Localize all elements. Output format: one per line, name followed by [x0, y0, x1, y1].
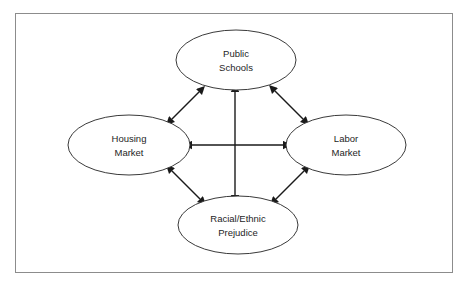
- connector-prejudice-to-labor: [276, 171, 304, 199]
- node-label-public-schools-line-1: Public: [223, 48, 249, 59]
- connector-housing-to-prejudice: [172, 171, 200, 199]
- connector-housing-to-schools: [172, 92, 199, 119]
- connector-group: [172, 91, 304, 199]
- node-housing-market[interactable]: Housing Market: [68, 115, 190, 175]
- node-label-racial-ethnic-prejudice-line-1: Racial/Ethnic: [210, 213, 266, 224]
- node-label-labor-market-line-1: Labor: [334, 133, 358, 144]
- node-shape-labor-market: [286, 115, 406, 175]
- relationship-diagram: Public Schools Housing Market Labor Mark…: [0, 0, 471, 284]
- node-racial-ethnic-prejudice[interactable]: Racial/Ethnic Prejudice: [178, 196, 298, 254]
- node-label-housing-market-line-2: Market: [114, 147, 143, 158]
- node-label-public-schools-line-2: Schools: [219, 62, 253, 73]
- node-shape-public-schools: [176, 30, 296, 90]
- node-public-schools[interactable]: Public Schools: [176, 30, 296, 90]
- node-label-labor-market-line-2: Market: [331, 147, 360, 158]
- node-labor-market[interactable]: Labor Market: [286, 115, 406, 175]
- node-shape-racial-ethnic-prejudice: [178, 196, 298, 254]
- node-shape-housing-market: [68, 115, 190, 175]
- node-label-racial-ethnic-prejudice-line-2: Prejudice: [218, 227, 258, 238]
- connector-schools-to-labor: [275, 91, 303, 119]
- node-label-housing-market-line-1: Housing: [112, 133, 147, 144]
- diagram-page: Public Schools Housing Market Labor Mark…: [0, 0, 471, 284]
